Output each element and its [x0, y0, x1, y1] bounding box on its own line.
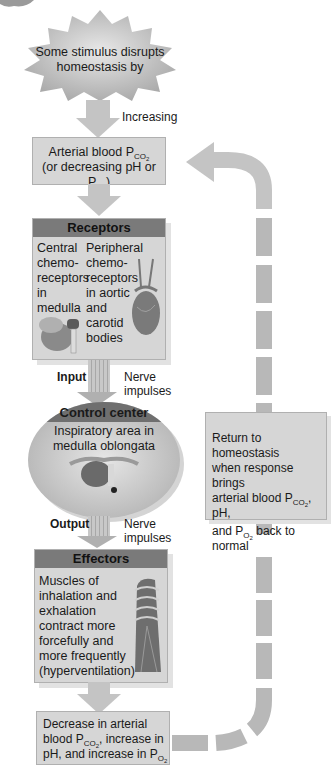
corner-fragment-icon: [0, 0, 36, 10]
loop-dash: [256, 357, 272, 395]
loop-dash: [256, 265, 272, 303]
loop-dash: [256, 218, 272, 256]
return-to-homeostasis-box: Return to homeostasis when response brin…: [205, 412, 327, 520]
loop-dash: [256, 311, 272, 349]
return-loop-arrow-icon: [0, 0, 335, 776]
loop-dash: [256, 643, 272, 679]
return-line3: arterial blood PCO2, pH,: [212, 491, 326, 521]
return-line1: Return to homeostasis: [212, 431, 326, 461]
loop-dash: [256, 600, 272, 636]
loop-dash: [256, 557, 272, 593]
return-line2: when response brings: [212, 461, 326, 491]
return-line4: and PO2 back to normal: [212, 524, 326, 554]
